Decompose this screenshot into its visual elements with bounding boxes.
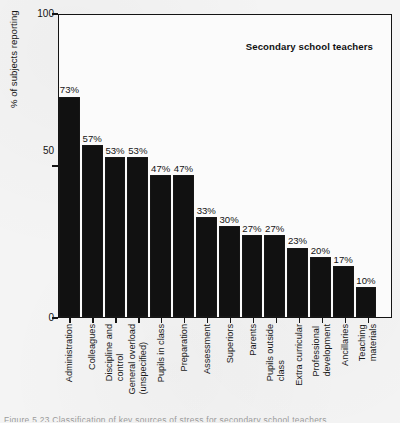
bar-slot: 47%: [150, 15, 173, 317]
bar-slot: 17%: [333, 15, 356, 317]
bar: 47%: [173, 175, 194, 317]
x-axis-label: Teachingmaterials: [357, 324, 378, 361]
x-axis-label-slot: Pupils outsideclass: [265, 322, 288, 402]
x-axis-label-line: Professional: [311, 324, 322, 377]
x-axis-category-labels: AdministrationColleaguesDiscipline andco…: [58, 322, 392, 402]
bar-slot: 57%: [82, 15, 105, 317]
bar: 73%: [59, 97, 80, 317]
x-axis-label: Parents: [248, 324, 258, 356]
x-axis-label-line: Teaching: [357, 324, 368, 361]
x-axis-label: Assessment: [202, 324, 212, 374]
x-axis-label: Professionaldevelopment: [311, 324, 332, 377]
bar: 53%: [127, 157, 148, 317]
x-axis-label-slot: Colleagues: [81, 322, 104, 402]
x-axis-label: Preparation: [179, 324, 189, 372]
bar-slot: 23%: [287, 15, 310, 317]
bar-slot: 47%: [173, 15, 196, 317]
bar-value-label: 17%: [333, 255, 354, 265]
x-axis-label: Extra curricular: [294, 324, 304, 386]
x-axis-label-slot: Pupils in class: [150, 322, 173, 402]
bar: 17%: [333, 266, 354, 317]
x-axis-label-slot: Discipline andcontrol: [104, 322, 127, 402]
x-axis-label-slot: Preparation: [173, 322, 196, 402]
bar-slot: 33%: [196, 15, 219, 317]
bar: 33%: [196, 217, 217, 317]
x-axis-label-line: class: [276, 324, 287, 381]
bar: 47%: [150, 175, 171, 317]
bar: 57%: [82, 145, 103, 317]
bar-value-label: 10%: [356, 276, 377, 286]
x-axis-label-line: Parents: [248, 324, 258, 356]
x-axis-label-slot: Superiors: [219, 322, 242, 402]
x-axis-label-line: Pupils in class: [156, 324, 166, 382]
plot-area: Secondary school teachers 73%57%53%53%47…: [58, 14, 392, 318]
x-axis-label-line: control: [115, 324, 126, 381]
x-axis-label-slot: Parents: [242, 322, 265, 402]
x-axis-label-line: materials: [368, 324, 379, 361]
x-axis-label: Pupils in class: [156, 324, 166, 382]
x-axis-label-line: Superiors: [225, 324, 235, 363]
x-axis-label-slot: Assessment: [196, 322, 219, 402]
y-axis-tick-label-0: 0: [14, 313, 54, 323]
x-axis-label-line: Preparation: [179, 324, 189, 372]
x-axis-label-slot: Extra curricular: [288, 322, 311, 402]
bar-slot: 10%: [356, 15, 379, 317]
bar: 20%: [310, 257, 331, 317]
x-axis-label-line: Administration: [64, 324, 74, 382]
bar-value-label: 23%: [287, 236, 308, 246]
x-axis-label-slot: Ancillaries: [333, 322, 356, 402]
bar: 10%: [356, 287, 377, 317]
x-axis-label-line: development: [322, 324, 333, 377]
bar-slot: 27%: [264, 15, 287, 317]
x-axis-label-slot: Professionaldevelopment: [310, 322, 333, 402]
bar-value-label: 73%: [59, 85, 80, 95]
bar-value-label: 27%: [242, 224, 263, 234]
x-axis-label-line: Discipline and: [105, 324, 116, 381]
bar-slot: 73%: [59, 15, 82, 317]
chart-page: 100 50 0 % of subjects reporting Seconda…: [0, 0, 400, 423]
bar-value-label: 57%: [82, 134, 103, 144]
x-axis-label-slot: General overload(unspecified): [127, 322, 150, 402]
x-axis-label: Ancillaries: [340, 324, 350, 366]
x-axis-label-line: Pupils outside: [265, 324, 276, 381]
y-axis-tick-label-100: 100: [14, 9, 54, 19]
x-axis-label: General overload(unspecified): [128, 324, 149, 394]
bar-value-label: 47%: [173, 164, 194, 174]
bar: 27%: [242, 235, 263, 317]
bar-slot: 27%: [242, 15, 265, 317]
x-axis-label: Superiors: [225, 324, 235, 363]
y-axis-tick-label-50: 50: [14, 146, 54, 156]
bar-value-label: 53%: [127, 146, 148, 156]
bar-series: 73%57%53%53%47%47%33%30%27%27%23%20%17%1…: [59, 15, 391, 317]
bar-value-label: 20%: [310, 246, 331, 256]
y-axis-title: % of subjects reporting: [8, 10, 19, 108]
bar-slot: 53%: [127, 15, 150, 317]
bar: 23%: [287, 248, 308, 317]
bar-slot: 53%: [105, 15, 128, 317]
x-axis-label: Administration: [64, 324, 74, 382]
x-axis-label-line: (unspecified): [138, 324, 149, 394]
x-axis-label-line: Extra curricular: [294, 324, 304, 386]
x-axis-label-line: General overload: [128, 324, 139, 394]
x-axis-label-line: Ancillaries: [340, 324, 350, 366]
x-axis-label-line: Assessment: [202, 324, 212, 374]
bar-value-label: 27%: [264, 224, 285, 234]
x-axis-label-slot: Teachingmaterials: [356, 322, 379, 402]
bar: 27%: [264, 235, 285, 317]
x-axis-label: Discipline andcontrol: [105, 324, 126, 381]
x-axis-label: Pupils outsideclass: [265, 324, 286, 381]
bar-slot: 20%: [310, 15, 333, 317]
bar-value-label: 30%: [219, 215, 240, 225]
x-axis-label-slot: Administration: [58, 322, 81, 402]
bar-value-label: 33%: [196, 206, 217, 216]
bar-value-label: 47%: [150, 164, 171, 174]
bar-slot: 30%: [219, 15, 242, 317]
bar: 30%: [219, 226, 240, 317]
x-axis-label-line: Colleagues: [87, 324, 97, 370]
figure-caption: Figure 5.23 Classification of key source…: [4, 415, 396, 422]
bar-value-label: 53%: [105, 146, 126, 156]
x-axis-label: Colleagues: [87, 324, 97, 370]
bar: 53%: [105, 157, 126, 317]
